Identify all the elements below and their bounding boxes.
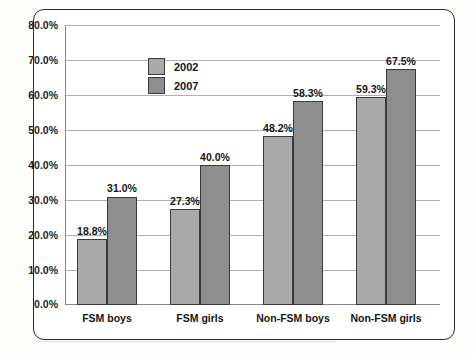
bar-label-2007-fsm-boys: 31.0% — [107, 182, 137, 194]
y-tick-label-0: 0.0% — [34, 298, 58, 310]
bar-label-2002-fsm-boys: 18.8% — [77, 225, 107, 237]
bar-2007-fsm-boys[interactable] — [107, 197, 137, 306]
chart-legend: 2002 2007 — [148, 57, 198, 95]
x-category-label-fsm-girls: FSM girls — [176, 312, 223, 324]
bar-label-2007-non-fsm-girls: 67.5% — [386, 55, 416, 67]
y-tick-label-10: 10.0% — [28, 264, 58, 276]
bar-label-2002-non-fsm-girls: 59.3% — [356, 83, 386, 95]
y-tick-label-30: 30.0% — [28, 194, 58, 206]
bar-2002-non-fsm-boys[interactable] — [263, 136, 293, 305]
bar-2007-fsm-girls[interactable] — [200, 165, 230, 305]
bar-label-2007-non-fsm-boys: 58.3% — [293, 87, 323, 99]
bar-2007-non-fsm-girls[interactable] — [386, 69, 416, 305]
legend-swatch-2007 — [148, 77, 165, 94]
x-category-label-fsm-boys: FSM boys — [82, 312, 132, 324]
legend-label-2007: 2007 — [174, 80, 198, 92]
bar-2002-non-fsm-girls[interactable] — [356, 97, 386, 305]
y-tick-label-60: 60.0% — [28, 89, 58, 101]
y-tick-label-80: 80.0% — [28, 19, 58, 31]
x-category-label-non-fsm-girls: Non-FSM girls — [350, 312, 421, 324]
bar-label-2002-non-fsm-boys: 48.2% — [263, 122, 293, 134]
bar-label-2007-fsm-girls: 40.0% — [200, 151, 230, 163]
y-tick-label-70: 70.0% — [28, 54, 58, 66]
gridline-60: 60.0% — [65, 95, 440, 96]
x-category-label-non-fsm-boys: Non-FSM boys — [256, 312, 330, 324]
bar-2002-fsm-boys[interactable] — [77, 239, 107, 305]
y-axis-line — [65, 25, 66, 305]
legend-label-2002: 2002 — [174, 61, 198, 73]
plot-area: 80.0% 70.0% 60.0% 50.0% 40.0% 30.0% 20.0… — [65, 25, 440, 305]
legend-entry-2007[interactable]: 2007 — [148, 76, 198, 95]
gridline-80: 80.0% — [65, 25, 440, 26]
bar-2007-non-fsm-boys[interactable] — [293, 101, 323, 305]
gridline-70: 70.0% — [65, 60, 440, 61]
y-tick-label-40: 40.0% — [28, 159, 58, 171]
y-tick-label-20: 20.0% — [28, 229, 58, 241]
bar-label-2002-fsm-girls: 27.3% — [170, 195, 200, 207]
chart-figure: 80.0% 70.0% 60.0% 50.0% 40.0% 30.0% 20.0… — [0, 0, 473, 354]
legend-entry-2002[interactable]: 2002 — [148, 57, 198, 76]
bar-2002-fsm-girls[interactable] — [170, 209, 200, 305]
legend-swatch-2002 — [148, 58, 165, 75]
y-tick-label-50: 50.0% — [28, 124, 58, 136]
scan-artifact-line — [36, 341, 336, 342]
